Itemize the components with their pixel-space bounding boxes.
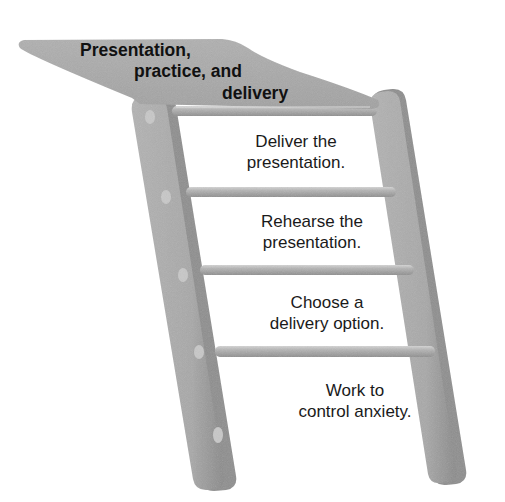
step-label-line: control anxiety. xyxy=(260,401,450,422)
rivet-icon xyxy=(178,268,188,282)
platform-title-line-3: delivery xyxy=(222,82,288,104)
step-label-line: Choose a xyxy=(235,292,419,313)
step-label-line: presentation. xyxy=(222,232,402,253)
step-label-rehearse: Rehearse the presentation. xyxy=(222,211,402,253)
step-label-line: presentation. xyxy=(208,152,384,173)
step-label-line: Deliver the xyxy=(208,131,384,152)
rivet-icon xyxy=(213,427,223,443)
rung-2 xyxy=(186,187,396,197)
step-label-anxiety: Work to control anxiety. xyxy=(260,380,450,422)
platform-title-line-1: Presentation, xyxy=(80,39,191,61)
rivet-icon xyxy=(161,190,171,204)
rivet-icon xyxy=(145,110,155,124)
step-label-line: Work to xyxy=(260,380,450,401)
rung-3 xyxy=(200,265,414,275)
right-rail xyxy=(370,89,466,485)
rung-4 xyxy=(215,346,435,357)
platform-title-line-2: practice, and xyxy=(134,60,242,82)
step-label-line: Rehearse the xyxy=(222,211,402,232)
step-label-deliver: Deliver the presentation. xyxy=(208,131,384,173)
step-label-line: delivery option. xyxy=(235,313,419,334)
step-label-choose: Choose a delivery option. xyxy=(235,292,419,334)
rivet-icon xyxy=(194,345,204,359)
